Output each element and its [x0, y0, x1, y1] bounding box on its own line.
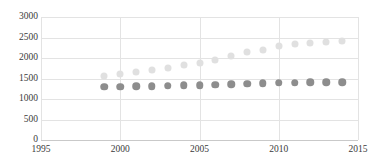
- x-tick-label: 2015: [349, 145, 368, 155]
- scatter-chart: 300025002000150010005000 199520002005201…: [0, 0, 375, 163]
- data-point: [259, 46, 266, 53]
- x-tick-label: 1995: [32, 145, 51, 155]
- data-point: [307, 40, 314, 47]
- data-point: [323, 38, 330, 45]
- data-point: [196, 59, 203, 66]
- gridline-vertical: [41, 17, 42, 140]
- data-point: [196, 82, 204, 90]
- data-point: [243, 80, 251, 88]
- data-point: [164, 65, 171, 72]
- data-point: [291, 79, 299, 87]
- data-point: [101, 72, 108, 79]
- data-point: [148, 82, 156, 90]
- data-point: [133, 69, 140, 76]
- data-point: [132, 83, 140, 91]
- data-point: [227, 80, 235, 88]
- data-point: [339, 38, 346, 45]
- data-point: [117, 83, 125, 91]
- data-point: [259, 79, 267, 87]
- data-point: [275, 79, 283, 87]
- data-point: [180, 61, 187, 68]
- gridline-vertical: [358, 17, 359, 140]
- x-axis-line: [41, 140, 358, 141]
- x-tick-label: 2010: [269, 145, 288, 155]
- x-tick-label: 2000: [111, 145, 130, 155]
- gridline-vertical: [120, 17, 121, 140]
- data-point: [323, 78, 331, 86]
- data-point: [212, 57, 219, 64]
- data-point: [244, 49, 251, 56]
- data-point: [180, 82, 188, 90]
- y-axis: 300025002000150010005000: [0, 0, 38, 163]
- data-point: [164, 82, 172, 90]
- data-point: [338, 78, 346, 86]
- data-point: [101, 83, 109, 91]
- data-point: [212, 81, 220, 89]
- y-tick-label: 3000: [0, 12, 38, 22]
- data-point: [148, 67, 155, 74]
- x-tick-label: 2005: [190, 145, 209, 155]
- data-point: [291, 41, 298, 48]
- plot-area: [41, 17, 358, 140]
- data-point: [228, 52, 235, 59]
- gridline-vertical: [200, 17, 201, 140]
- y-tick-label: 500: [0, 115, 38, 125]
- data-point: [117, 71, 124, 78]
- y-tick-label: 1000: [0, 94, 38, 104]
- data-point: [275, 43, 282, 50]
- y-tick-label: 2000: [0, 53, 38, 63]
- data-point: [307, 78, 315, 86]
- y-tick-label: 2500: [0, 33, 38, 43]
- y-tick-label: 1500: [0, 74, 38, 84]
